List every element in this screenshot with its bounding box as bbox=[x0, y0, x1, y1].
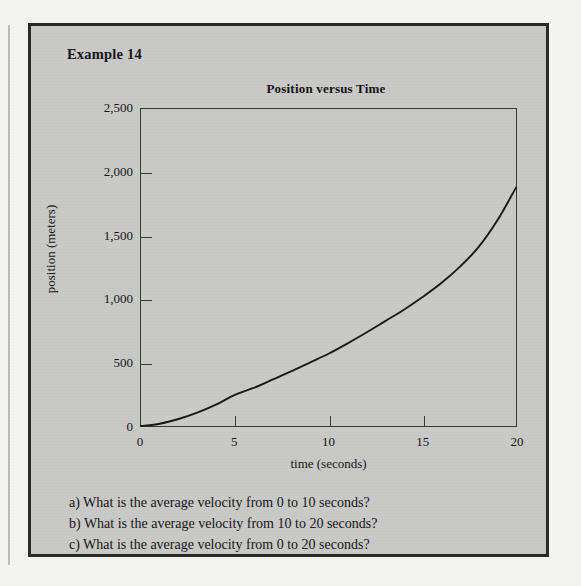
y-axis-tick bbox=[141, 173, 152, 174]
page-margin-rule bbox=[8, 25, 10, 565]
x-axis-tick-labels: 05101520 bbox=[140, 434, 517, 456]
y-axis-tick-labels: 05001,0001,5002,0002,500 bbox=[78, 108, 133, 427]
chart-title: Position versus Time bbox=[141, 81, 511, 97]
y-axis-tick-label: 2,500 bbox=[104, 100, 133, 116]
figure-box: Example 14 Position versus Time position… bbox=[28, 23, 549, 557]
x-axis-tick bbox=[330, 416, 331, 426]
x-axis-tick-label: 10 bbox=[322, 434, 335, 450]
y-axis-tick-label: 2,000 bbox=[104, 164, 133, 180]
questions-list: a) What is the average velocity from 0 t… bbox=[69, 492, 519, 555]
question-line: b) What is the average velocity from 10 … bbox=[69, 513, 519, 534]
scanned-page: Example 14 Position versus Time position… bbox=[0, 0, 581, 586]
curve-svg bbox=[141, 109, 516, 426]
y-axis-title: position (meters) bbox=[43, 169, 59, 329]
y-axis-tick-label: 1,500 bbox=[104, 228, 133, 244]
x-axis-tick-label: 5 bbox=[231, 434, 238, 450]
x-axis-tick-label: 0 bbox=[137, 434, 144, 450]
y-axis-tick-label: 0 bbox=[127, 419, 134, 435]
question-line: a) What is the average velocity from 0 t… bbox=[69, 492, 519, 513]
position-versus-time-chart: Position versus Time position (meters) 0… bbox=[31, 26, 552, 496]
y-axis-tick-label: 1,000 bbox=[104, 291, 133, 307]
x-axis-tick-label: 15 bbox=[416, 434, 429, 450]
question-line: c) What is the average velocity from 0 t… bbox=[69, 534, 519, 555]
x-axis-tick bbox=[235, 416, 236, 426]
x-axis-tick bbox=[424, 416, 425, 426]
plot-area bbox=[140, 108, 517, 427]
x-axis-tick-label: 20 bbox=[511, 434, 524, 450]
position-curve bbox=[141, 188, 516, 426]
x-axis-title: time (seconds) bbox=[140, 456, 517, 472]
y-axis-tick bbox=[141, 364, 152, 365]
y-axis-tick bbox=[141, 237, 152, 238]
y-axis-tick-label: 500 bbox=[114, 355, 134, 371]
y-axis-tick bbox=[141, 300, 152, 301]
